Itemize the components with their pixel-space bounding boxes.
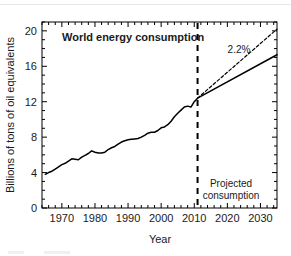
x-tick-label: 2020 bbox=[215, 212, 239, 224]
y-tick-label: 12 bbox=[25, 96, 37, 108]
figure-container: 1970198019902000201020202030 048121620 B… bbox=[0, 0, 291, 256]
energy-consumption-chart: 1970198019902000201020202030 048121620 B… bbox=[0, 0, 291, 256]
x-tick-label: 1980 bbox=[83, 212, 107, 224]
y-tick-label: 16 bbox=[25, 60, 37, 72]
series-line bbox=[45, 98, 197, 174]
y-tick-label: 8 bbox=[31, 131, 37, 143]
x-tick-label: 2010 bbox=[182, 212, 206, 224]
projected-consumption-label-line2: consumption bbox=[203, 190, 260, 201]
x-axis-tick-labels: 1970198019902000201020202030 bbox=[50, 212, 273, 224]
x-tick-label: 1970 bbox=[50, 212, 74, 224]
x-axis-title: Year bbox=[149, 233, 172, 245]
x-tick-label: 1990 bbox=[116, 212, 140, 224]
page-artifact-right bbox=[44, 251, 70, 254]
series-line bbox=[198, 29, 277, 98]
y-axis-title: Billions of tons of oil equivalents bbox=[4, 37, 16, 193]
projected-consumption-label-line1: Projected bbox=[210, 178, 252, 189]
x-tick-label: 2030 bbox=[248, 212, 272, 224]
growth-rate-annotation: 2.2% bbox=[228, 44, 251, 55]
y-axis-tick-labels: 048121620 bbox=[25, 25, 37, 214]
x-tick-label: 2000 bbox=[149, 212, 173, 224]
y-tick-label: 20 bbox=[25, 25, 37, 37]
y-tick-label: 0 bbox=[31, 202, 37, 214]
chart-title: World energy consumption bbox=[62, 31, 204, 43]
page-artifact-left bbox=[8, 251, 24, 254]
y-tick-label: 4 bbox=[31, 167, 37, 179]
series-line bbox=[198, 55, 277, 98]
